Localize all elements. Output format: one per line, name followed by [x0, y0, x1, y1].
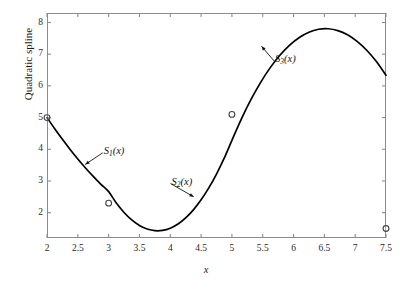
y-axis-title: Quadratic spline — [22, 0, 34, 144]
x-tick-label: 3 — [106, 244, 111, 254]
segment-label-subscript: 3 — [280, 57, 284, 66]
segment-label-2: S2(x) — [172, 177, 193, 188]
segment-label-argument: (x) — [181, 176, 193, 187]
x-tick-label: 2.5 — [72, 244, 84, 254]
x-tick-label: 6.5 — [318, 244, 330, 254]
segment-label-symbol: S — [172, 176, 177, 187]
figure-container: 22.533.544.555.566.577.5 2345678 x Quadr… — [0, 0, 412, 283]
x-tick-label: 7.5 — [380, 244, 392, 254]
knot-marker — [44, 115, 50, 121]
segment-label-1: S1(x) — [104, 146, 125, 157]
segment-label-subscript: 1 — [109, 149, 113, 158]
y-tick-label: 4 — [31, 145, 43, 155]
segment-label-subscript: 2 — [177, 180, 181, 189]
annotation-arrow-head — [85, 161, 90, 165]
x-tick-label: 4 — [168, 244, 173, 254]
segment-label-argument: (x) — [284, 53, 296, 64]
y-tick-label: 2 — [31, 208, 43, 218]
x-tick-label: 2 — [45, 244, 50, 254]
x-tick-label: 4.5 — [195, 244, 207, 254]
x-tick-label: 7 — [353, 244, 358, 254]
y-tick-label: 3 — [31, 176, 43, 186]
x-tick-label: 6 — [291, 244, 296, 254]
knot-marker — [383, 226, 389, 232]
plot-canvas — [0, 0, 412, 283]
x-tick-label: 3.5 — [134, 244, 146, 254]
knot-markers — [44, 112, 389, 232]
annotation-arrows — [85, 46, 274, 197]
tick-marks — [47, 13, 386, 238]
x-tick-label: 5.5 — [257, 244, 269, 254]
spline-curve — [47, 29, 386, 231]
segment-label-argument: (x) — [113, 145, 125, 156]
knot-marker — [106, 200, 112, 206]
knot-marker — [229, 112, 235, 118]
x-axis-title: x — [0, 264, 412, 275]
segment-label-3: S3(x) — [275, 54, 296, 65]
x-tick-label: 5 — [230, 244, 235, 254]
